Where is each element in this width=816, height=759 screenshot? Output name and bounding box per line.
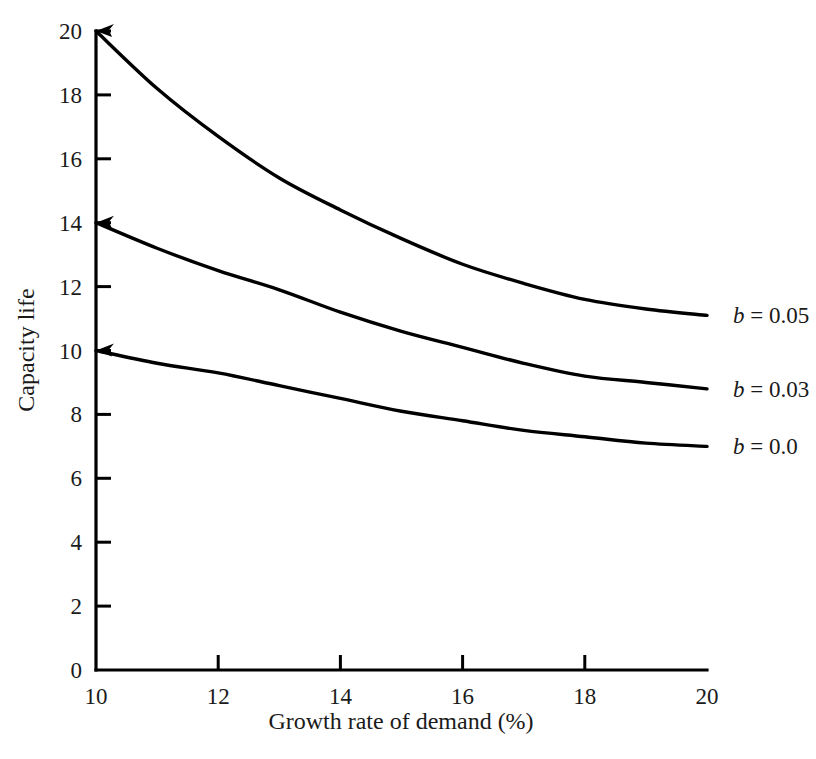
x-tick-label-20: 20	[696, 684, 719, 709]
x-tick-label-16: 16	[451, 684, 474, 709]
x-axis-ticks	[218, 655, 585, 670]
x-tick-label-18: 18	[573, 684, 596, 709]
curve-series-0	[96, 31, 707, 315]
y-tick-label-0: 0	[71, 658, 83, 683]
y-axis-ticks	[96, 31, 111, 606]
curve-series-2	[96, 351, 707, 447]
series-label-0: b = 0.05	[733, 303, 809, 328]
x-axis-title: Growth rate of demand (%)	[268, 708, 533, 734]
series-label-variable-1: b	[733, 377, 745, 402]
series-label-value-2: = 0.0	[745, 434, 798, 459]
x-tick-label-14: 14	[329, 684, 353, 709]
y-tick-label-2: 2	[71, 594, 83, 619]
series-labels: b = 0.05b = 0.03b = 0.0	[733, 303, 809, 459]
y-tick-label-4: 4	[71, 530, 83, 555]
series-label-2: b = 0.0	[733, 434, 798, 459]
series-label-value-1: = 0.03	[745, 377, 810, 402]
y-axis-title: Capacity life	[13, 288, 39, 411]
series-label-value-0: = 0.05	[745, 303, 810, 328]
y-tick-label-14: 14	[59, 211, 83, 236]
capacity-life-chart: 02468101214161820 101214161820 b = 0.05b…	[0, 0, 816, 759]
y-tick-label-12: 12	[59, 275, 82, 300]
y-tick-label-16: 16	[59, 147, 82, 172]
x-tick-label-10: 10	[85, 684, 108, 709]
axes	[96, 31, 707, 670]
y-axis-tick-labels: 02468101214161820	[59, 19, 83, 683]
chart-page: 02468101214161820 101214161820 b = 0.05b…	[0, 0, 816, 759]
series-label-variable-0: b	[733, 303, 745, 328]
y-tick-label-18: 18	[59, 83, 82, 108]
y-tick-label-20: 20	[59, 19, 82, 44]
series-label-1: b = 0.03	[733, 377, 809, 402]
series-label-variable-2: b	[733, 434, 745, 459]
x-tick-label-12: 12	[207, 684, 230, 709]
series-curves	[96, 24, 707, 446]
x-axis-tick-labels: 101214161820	[85, 684, 719, 709]
y-tick-label-8: 8	[71, 402, 83, 427]
y-tick-label-10: 10	[59, 339, 82, 364]
y-tick-label-6: 6	[71, 466, 83, 491]
